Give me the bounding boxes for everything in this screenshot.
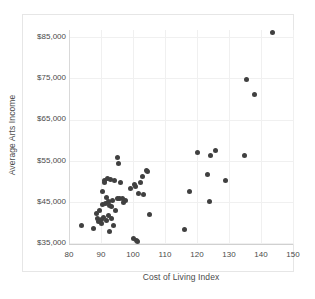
scatter-point bbox=[133, 184, 138, 189]
scatter-point bbox=[223, 178, 228, 183]
x-axis-title: Cost of Living Index bbox=[69, 272, 293, 282]
y-axis-title: Average Arts Income bbox=[7, 87, 17, 183]
gridline-vertical bbox=[197, 30, 198, 244]
x-tick-label: 110 bbox=[152, 250, 178, 259]
scatter-point bbox=[79, 223, 84, 228]
scatter-point bbox=[112, 178, 117, 183]
x-tick-label: 100 bbox=[120, 250, 146, 259]
gridline-horizontal bbox=[69, 120, 293, 121]
gridline-vertical bbox=[229, 30, 230, 244]
scatter-point bbox=[113, 208, 118, 213]
scatter-point bbox=[111, 223, 116, 228]
gridline-vertical bbox=[133, 30, 134, 244]
y-tick-label: $75,000 bbox=[20, 73, 66, 82]
scatter-point bbox=[115, 155, 120, 160]
scatter-point bbox=[213, 148, 218, 153]
scatter-point bbox=[208, 153, 213, 158]
y-tick-label: $55,000 bbox=[20, 156, 66, 165]
scatter-point bbox=[140, 174, 145, 179]
x-tick-label: 150 bbox=[280, 250, 306, 259]
x-tick-label: 120 bbox=[184, 250, 210, 259]
x-axis-line bbox=[69, 244, 293, 245]
scatter-point bbox=[138, 180, 143, 185]
x-tick-label: 130 bbox=[216, 250, 242, 259]
x-tick-label: 90 bbox=[88, 250, 114, 259]
scatter-point bbox=[207, 199, 212, 204]
y-tick-label: $35,000 bbox=[20, 238, 66, 247]
y-tick-label: $65,000 bbox=[20, 114, 66, 123]
scatter-point bbox=[100, 189, 105, 194]
scatter-point bbox=[242, 153, 247, 158]
scatter-point bbox=[107, 229, 112, 234]
scatter-point bbox=[116, 161, 121, 166]
scatter-point bbox=[109, 216, 114, 221]
x-tick-label: 140 bbox=[248, 250, 274, 259]
scatter-point bbox=[91, 226, 96, 231]
scatter-point bbox=[195, 150, 200, 155]
gridline-horizontal bbox=[69, 37, 293, 38]
gridline-horizontal bbox=[69, 78, 293, 79]
scatter-point bbox=[118, 180, 123, 185]
x-tick-label: 80 bbox=[56, 250, 82, 259]
y-axis-line bbox=[69, 30, 70, 245]
gridline-horizontal bbox=[69, 161, 293, 162]
scatter-point bbox=[141, 192, 146, 197]
y-tick-label: $45,000 bbox=[20, 197, 66, 206]
scatter-point bbox=[104, 218, 109, 223]
scatter-point bbox=[182, 227, 187, 232]
scatter-point bbox=[97, 208, 102, 213]
scatter-point bbox=[205, 172, 210, 177]
scatter-point bbox=[252, 92, 257, 97]
gridline-vertical bbox=[293, 30, 294, 244]
scatter-point bbox=[270, 30, 275, 35]
gridline-vertical bbox=[261, 30, 262, 244]
y-tick-label: $85,000 bbox=[20, 32, 66, 41]
scatter-point bbox=[102, 180, 107, 185]
scatter-point bbox=[187, 189, 192, 194]
scatter-plot: $35,000$45,000$55,000$65,000$75,000$85,0… bbox=[0, 0, 315, 299]
scatter-point bbox=[145, 169, 150, 174]
scatter-point bbox=[147, 212, 152, 217]
gridline-vertical bbox=[165, 30, 166, 244]
scatter-point bbox=[244, 77, 249, 82]
